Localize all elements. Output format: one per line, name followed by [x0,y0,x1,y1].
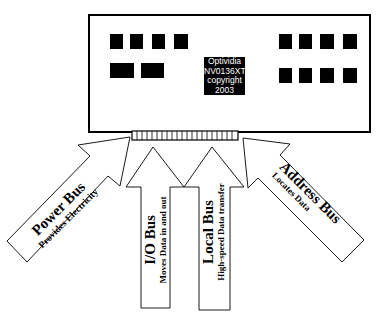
io-bus-title: I/O Bus [142,215,158,265]
card-label-line: 2003 [204,86,245,96]
bus-diagram: Power Bus Provides Electricity I/O Bus M… [0,0,388,323]
local-bus-title: Local Bus [200,200,216,264]
local-bus-desc: High-speed Data transfer [216,183,226,281]
edge-connector [132,131,238,140]
io-bus-desc: Moves Data in and out [158,196,168,283]
card-label: Optividia NV0136XT copyright 2003 [204,57,245,95]
